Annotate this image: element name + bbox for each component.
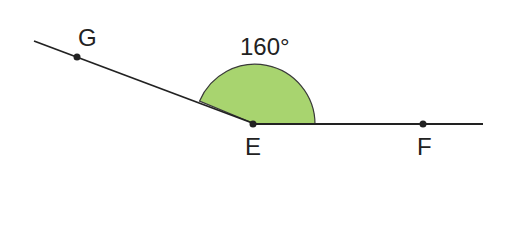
point-f-dot bbox=[420, 121, 427, 128]
point-e-label: E bbox=[245, 135, 261, 159]
point-f-label: F bbox=[417, 135, 432, 159]
point-g-dot bbox=[74, 54, 81, 61]
point-e-dot bbox=[250, 121, 257, 128]
angle-label: 160° bbox=[240, 35, 290, 59]
angle-diagram: 160° G E F bbox=[0, 0, 529, 230]
point-g-label: G bbox=[78, 26, 97, 50]
angle-sector bbox=[200, 64, 315, 124]
